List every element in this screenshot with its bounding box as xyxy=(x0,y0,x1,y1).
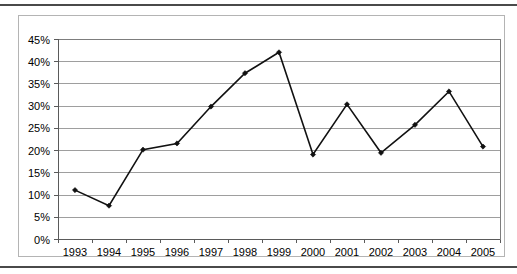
y-axis-tick-label: 35% xyxy=(28,78,50,90)
line-chart: 0%5%10%15%20%25%30%35%40%45% 19931994199… xyxy=(19,16,504,256)
y-axis-tick-label: 25% xyxy=(28,122,50,134)
x-axis-tick-label: 2002 xyxy=(369,246,393,256)
data-point-markers-group xyxy=(72,50,485,209)
x-axis-tick-label: 1999 xyxy=(267,246,291,256)
data-point-marker xyxy=(72,188,77,193)
y-axis-tick-label: 10% xyxy=(28,189,50,201)
x-axis-tick-label: 1993 xyxy=(63,246,87,256)
y-axis-tick-label: 40% xyxy=(28,56,50,68)
y-axis-tick-label: 45% xyxy=(28,34,50,46)
x-axis-tick-label: 1994 xyxy=(97,246,121,256)
y-axis-tick-label: 15% xyxy=(28,167,50,179)
top-horizontal-rule xyxy=(0,4,517,6)
x-axis-tick-label: 1997 xyxy=(199,246,223,256)
x-axis-tick-label: 1998 xyxy=(233,246,257,256)
y-axis-ticks-group xyxy=(54,40,58,240)
data-series-line xyxy=(75,52,483,205)
x-axis-tick-label: 2001 xyxy=(335,246,359,256)
gridlines-group xyxy=(58,40,500,218)
y-axis-tick-label: 20% xyxy=(28,145,50,157)
y-axis-tick-label: 5% xyxy=(34,211,50,223)
bottom-horizontal-rule xyxy=(0,266,517,268)
plot-area-border xyxy=(59,40,501,240)
chart-page: 0%5%10%15%20%25%30%35%40%45% 19931994199… xyxy=(0,0,517,274)
y-axis-tick-label: 0% xyxy=(34,234,50,246)
x-axis-labels-group: 1993199419951996199719981999200020012002… xyxy=(63,246,495,256)
x-axis-tick-label: 2005 xyxy=(471,246,495,256)
x-axis-tick-label: 2000 xyxy=(301,246,325,256)
chart-frame: 0%5%10%15%20%25%30%35%40%45% 19931994199… xyxy=(18,15,505,257)
x-axis-tick-label: 2004 xyxy=(437,246,461,256)
x-axis-tick-label: 1996 xyxy=(165,246,189,256)
y-axis-tick-label: 30% xyxy=(28,100,50,112)
x-axis-tick-label: 2003 xyxy=(403,246,427,256)
y-axis-labels-group: 0%5%10%15%20%25%30%35%40%45% xyxy=(28,34,50,246)
x-axis-tick-label: 1995 xyxy=(131,246,155,256)
